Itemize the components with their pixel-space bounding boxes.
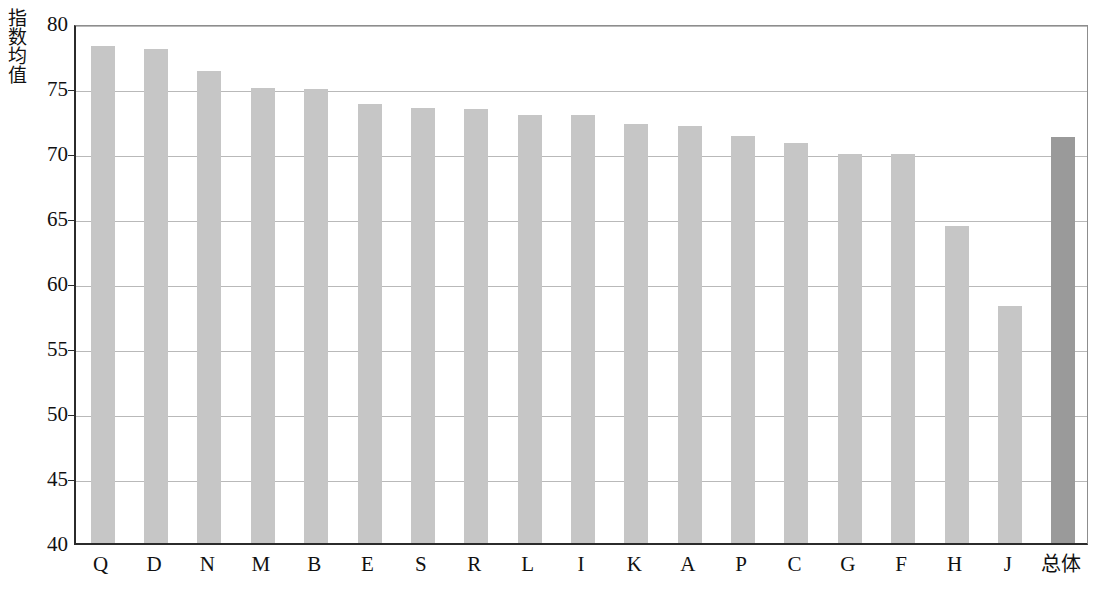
x-tick-label: S: [394, 551, 447, 577]
y-tick-label: 60: [22, 274, 68, 295]
y-axis-tick-labels: 404550556065707580: [14, 25, 68, 545]
x-tick-label: A: [661, 551, 714, 577]
y-tick-label: 50: [22, 404, 68, 425]
bar: [571, 115, 595, 543]
x-tick-label: Q: [74, 551, 127, 577]
x-tick-label: P: [714, 551, 767, 577]
y-tick-label: 80: [22, 14, 68, 35]
bar: [1051, 137, 1075, 543]
bar: [358, 104, 382, 543]
bar: [891, 154, 915, 543]
bar: [998, 306, 1022, 543]
bar: [464, 109, 488, 543]
x-tick-label: B: [287, 551, 340, 577]
bar: [251, 88, 275, 543]
x-axis-tick-labels: QDNMBESRLIKAPCGFHJ总体: [74, 547, 1088, 589]
x-tick-label: I: [554, 551, 607, 577]
x-tick-label: M: [234, 551, 287, 577]
x-tick-label: C: [768, 551, 821, 577]
y-tick-label: 75: [22, 79, 68, 100]
y-tick-label: 55: [22, 339, 68, 360]
bar: [784, 143, 808, 543]
y-tick-label: 40: [22, 534, 68, 555]
x-tick-label: L: [501, 551, 554, 577]
x-tick-label: R: [448, 551, 501, 577]
x-tick-label: D: [127, 551, 180, 577]
x-tick-label: N: [181, 551, 234, 577]
y-tick-label: 65: [22, 209, 68, 230]
bar: [624, 124, 648, 543]
bar: [411, 108, 435, 544]
x-tick-label: G: [821, 551, 874, 577]
bar: [304, 89, 328, 543]
x-tick-label: H: [928, 551, 981, 577]
y-tick-label: 70: [22, 144, 68, 165]
y-tick-label: 45: [22, 469, 68, 490]
bar: [197, 71, 221, 543]
bar-series: [76, 26, 1087, 543]
x-tick-label: E: [341, 551, 394, 577]
bar: [678, 126, 702, 543]
x-tick-label: F: [875, 551, 928, 577]
x-tick-label: K: [608, 551, 661, 577]
bar: [731, 136, 755, 543]
bar-chart: 指数均值 404550556065707580 QDNMBESRLIKAPCGF…: [0, 0, 1096, 610]
x-tick-label: 总体: [1035, 551, 1088, 577]
bar: [518, 115, 542, 543]
plot-area: [74, 25, 1088, 545]
x-tick-label: J: [981, 551, 1034, 577]
bar: [91, 46, 115, 543]
bar: [945, 226, 969, 543]
bar: [144, 49, 168, 543]
bar: [838, 154, 862, 543]
